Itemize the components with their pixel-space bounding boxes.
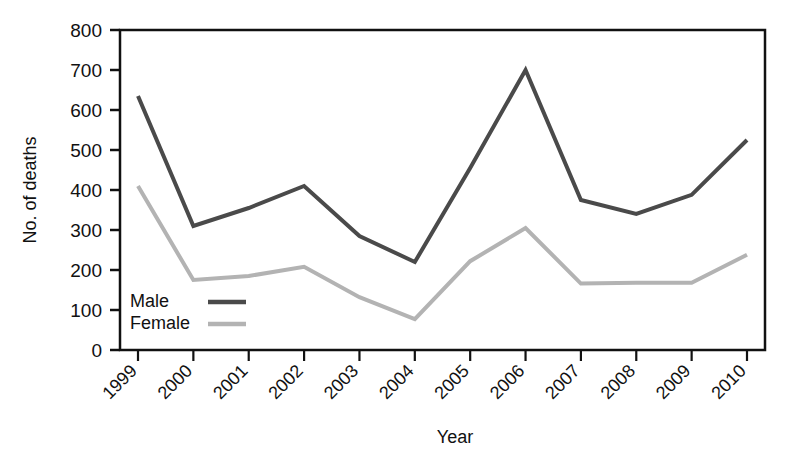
y-tick-label: 0 bbox=[91, 340, 102, 361]
y-tick-label: 200 bbox=[70, 260, 102, 281]
y-axis-title: No. of deaths bbox=[20, 136, 40, 243]
line-chart: 0100200300400500600700800 19992000200120… bbox=[0, 0, 793, 462]
y-tick-label: 300 bbox=[70, 220, 102, 241]
x-axis-title: Year bbox=[437, 427, 473, 447]
y-tick-label: 700 bbox=[70, 60, 102, 81]
legend-label-male: Male bbox=[130, 291, 169, 311]
y-tick-label: 100 bbox=[70, 300, 102, 321]
y-axis-ticks: 0100200300400500600700800 bbox=[70, 20, 120, 361]
legend-label-female: Female bbox=[130, 313, 190, 333]
y-tick-label: 600 bbox=[70, 100, 102, 121]
y-tick-label: 400 bbox=[70, 180, 102, 201]
y-tick-label: 500 bbox=[70, 140, 102, 161]
y-tick-label: 800 bbox=[70, 20, 102, 41]
chart-figure: 0100200300400500600700800 19992000200120… bbox=[0, 0, 793, 462]
